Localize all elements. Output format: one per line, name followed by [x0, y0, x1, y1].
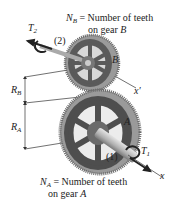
gear-b-shape: [65, 35, 119, 91]
torque-t2-label: T2: [28, 22, 37, 37]
point-2-label: (2): [54, 35, 66, 46]
gear-b-label: B: [112, 54, 118, 65]
gear-b-teeth-label-line2: on gear B: [88, 24, 126, 35]
point-1-label: (1): [106, 151, 118, 162]
gear-diagram: [0, 0, 172, 203]
x-prime-axis-label: x′: [134, 85, 141, 96]
gear-a-teeth-label-line2: on gear A: [48, 188, 86, 199]
gear-a-label: A: [124, 116, 130, 127]
x-axis-label: x: [160, 170, 164, 181]
torque-t1-label: T1: [141, 145, 150, 160]
radius-b-label: RB: [11, 84, 21, 99]
radius-a-label: RA: [11, 121, 21, 136]
